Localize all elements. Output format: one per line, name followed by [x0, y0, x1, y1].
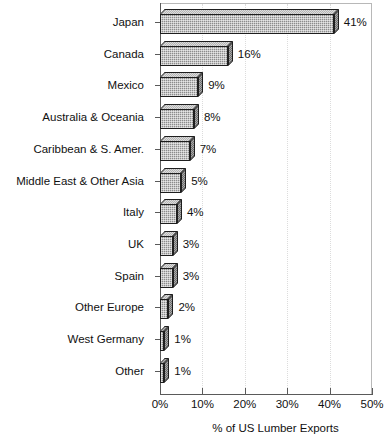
- bar-front-face: [160, 141, 190, 161]
- bar-front-face: [160, 46, 228, 66]
- bar-value-label: 4%: [187, 206, 204, 219]
- category-label: Caribbean & S. Amer.: [33, 143, 144, 156]
- bar-side-face: [173, 263, 178, 288]
- bar-side-face: [334, 9, 339, 34]
- bar-front-face: [160, 14, 334, 34]
- bar-value-label: 7%: [200, 143, 217, 156]
- value-axis-label: 50%: [352, 398, 391, 411]
- gridline: [245, 4, 246, 394]
- category-label: Mexico: [108, 79, 144, 92]
- bar[interactable]: [160, 199, 182, 225]
- category-label: Australia & Oceania: [42, 111, 144, 124]
- category-label: Italy: [123, 206, 144, 219]
- bar-side-face: [173, 231, 178, 256]
- bar-side-face: [190, 136, 195, 161]
- category-label: Middle East & Other Asia: [16, 175, 144, 188]
- bar-side-face: [181, 168, 186, 193]
- bar-side-face: [164, 358, 169, 383]
- category-label: UK: [128, 238, 144, 251]
- category-label: Japan: [113, 16, 144, 29]
- bar[interactable]: [160, 231, 178, 257]
- value-axis-label: 10%: [182, 398, 222, 411]
- bar[interactable]: [160, 326, 169, 352]
- gridline: [287, 4, 288, 394]
- bar-front-face: [160, 109, 194, 129]
- x-axis-title: % of US Lumber Exports: [160, 422, 391, 435]
- horizontal-bar-chart: JapanCanadaMexicoAustralia & OceaniaCari…: [0, 0, 391, 443]
- gridline: [330, 4, 331, 394]
- value-axis-tick: [160, 388, 161, 395]
- category-label: Other: [115, 365, 144, 378]
- bar-value-label: 1%: [174, 365, 191, 378]
- bar-side-face: [164, 326, 169, 351]
- bar-front-face: [160, 268, 173, 288]
- value-axis-label: 0%: [140, 398, 180, 411]
- bar-side-face: [177, 199, 182, 224]
- bar[interactable]: [160, 136, 195, 162]
- category-label: Other Europe: [75, 301, 144, 314]
- category-label: West Germany: [68, 333, 144, 346]
- bar[interactable]: [160, 294, 173, 320]
- value-axis-label: 30%: [267, 398, 307, 411]
- value-axis-tick: [372, 388, 373, 395]
- bar-value-label: 3%: [183, 238, 200, 251]
- value-axis-tick: [202, 388, 203, 395]
- bar[interactable]: [160, 41, 233, 67]
- bar-front-face: [160, 173, 181, 193]
- category-label: Canada: [104, 48, 144, 61]
- bar[interactable]: [160, 263, 178, 289]
- bar-front-face: [160, 299, 168, 319]
- bar[interactable]: [160, 104, 199, 130]
- value-axis-tick: [287, 388, 288, 395]
- bar-front-face: [160, 77, 198, 97]
- bar-value-label: 41%: [344, 16, 367, 29]
- bar-value-label: 8%: [204, 111, 221, 124]
- bar-side-face: [198, 72, 203, 97]
- bar-front-face: [160, 236, 173, 256]
- value-axis-label: 20%: [225, 398, 265, 411]
- bar[interactable]: [160, 9, 339, 35]
- bar-side-face: [194, 104, 199, 129]
- bar-side-face: [228, 41, 233, 66]
- bar-front-face: [160, 363, 164, 383]
- bar[interactable]: [160, 358, 169, 384]
- bar-side-face: [168, 294, 173, 319]
- category-label: Spain: [115, 270, 144, 283]
- value-axis-tick: [330, 388, 331, 395]
- bar-value-label: 9%: [208, 79, 225, 92]
- category-axis-labels: JapanCanadaMexicoAustralia & OceaniaCari…: [0, 3, 152, 383]
- bar-value-label: 5%: [191, 175, 208, 188]
- value-axis-line: [160, 394, 372, 395]
- bar-front-face: [160, 204, 177, 224]
- bar-value-label: 2%: [178, 301, 195, 314]
- bar[interactable]: [160, 168, 186, 194]
- value-axis-tick: [245, 388, 246, 395]
- bar-value-label: 3%: [183, 270, 200, 283]
- bar-value-label: 16%: [238, 48, 261, 61]
- bar-value-label: 1%: [174, 333, 191, 346]
- bar-front-face: [160, 331, 164, 351]
- value-axis-label: 40%: [310, 398, 350, 411]
- bar[interactable]: [160, 72, 203, 98]
